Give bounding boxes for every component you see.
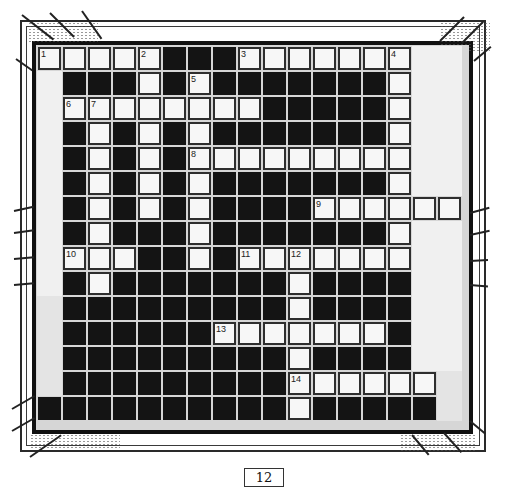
black-block <box>163 272 186 295</box>
black-block <box>138 322 161 345</box>
crossword-cell[interactable] <box>263 47 286 70</box>
black-block <box>113 297 136 320</box>
crossword-cell[interactable]: 1 <box>38 47 61 70</box>
black-block <box>63 72 86 95</box>
crossword-cell[interactable] <box>188 247 211 270</box>
black-block <box>238 397 261 420</box>
crossword-cell[interactable]: 6 <box>63 97 86 120</box>
crossword-cell[interactable] <box>88 197 111 220</box>
crossword-cell[interactable] <box>238 147 261 170</box>
grid-margin <box>37 346 62 371</box>
crossword-cell[interactable] <box>113 97 136 120</box>
crossword-cell[interactable]: 11 <box>238 247 261 270</box>
crossword-cell[interactable] <box>238 97 261 120</box>
crossword-cell[interactable] <box>288 47 311 70</box>
crossword-cell[interactable] <box>238 322 261 345</box>
crossword-cell[interactable] <box>363 147 386 170</box>
black-block <box>188 372 211 395</box>
crossword-cell[interactable] <box>338 372 361 395</box>
crossword-cell[interactable] <box>388 372 411 395</box>
black-block <box>113 347 136 370</box>
crossword-cell[interactable] <box>188 172 211 195</box>
crossword-cell[interactable] <box>413 372 436 395</box>
crossword-cell[interactable]: 3 <box>238 47 261 70</box>
crossword-cell[interactable] <box>88 247 111 270</box>
black-block <box>113 147 136 170</box>
crossword-cell[interactable] <box>188 197 211 220</box>
crossword-cell[interactable] <box>113 247 136 270</box>
crossword-cell[interactable] <box>363 197 386 220</box>
crossword-cell[interactable] <box>363 372 386 395</box>
crossword-cell[interactable] <box>163 97 186 120</box>
crossword-cell[interactable] <box>188 222 211 245</box>
crossword-cell[interactable] <box>363 247 386 270</box>
crossword-cell[interactable] <box>338 47 361 70</box>
crossword-cell[interactable]: 13 <box>213 322 236 345</box>
crossword-cell[interactable] <box>63 47 86 70</box>
grid-margin <box>37 96 62 121</box>
clue-number: 3 <box>241 49 246 59</box>
crossword-cell[interactable]: 5 <box>188 72 211 95</box>
crossword-cell[interactable] <box>313 322 336 345</box>
crossword-cell[interactable] <box>288 397 311 420</box>
crossword-cell[interactable] <box>138 72 161 95</box>
crossword-cell[interactable] <box>113 47 136 70</box>
crossword-cell[interactable] <box>363 47 386 70</box>
crossword-cell[interactable]: 2 <box>138 47 161 70</box>
crossword-cell[interactable] <box>138 97 161 120</box>
crossword-cell[interactable] <box>88 172 111 195</box>
crossword-cell[interactable] <box>288 272 311 295</box>
crossword-cell[interactable] <box>288 147 311 170</box>
crossword-cell[interactable] <box>288 322 311 345</box>
crossword-cell[interactable] <box>313 147 336 170</box>
crossword-cell[interactable] <box>313 247 336 270</box>
crossword-cell[interactable] <box>313 372 336 395</box>
crossword-cell[interactable] <box>388 122 411 145</box>
black-block <box>213 72 236 95</box>
crossword-cell[interactable] <box>138 122 161 145</box>
black-block <box>338 122 361 145</box>
crossword-cell[interactable] <box>438 197 461 220</box>
crossword-cell[interactable] <box>338 197 361 220</box>
black-block <box>163 372 186 395</box>
crossword-cell[interactable] <box>388 72 411 95</box>
crossword-cell[interactable] <box>213 97 236 120</box>
crossword-cell[interactable] <box>263 322 286 345</box>
crossword-cell[interactable] <box>88 47 111 70</box>
crossword-cell[interactable]: 8 <box>188 147 211 170</box>
crossword-cell[interactable] <box>138 197 161 220</box>
crossword-cell[interactable] <box>188 122 211 145</box>
crossword-cell[interactable] <box>313 47 336 70</box>
crossword-cell[interactable] <box>138 147 161 170</box>
crossword-cell[interactable] <box>388 222 411 245</box>
crossword-cell[interactable] <box>388 97 411 120</box>
crossword-cell[interactable]: 10 <box>63 247 86 270</box>
crossword-cell[interactable] <box>213 147 236 170</box>
crossword-cell[interactable]: 4 <box>388 47 411 70</box>
crossword-cell[interactable] <box>388 147 411 170</box>
crossword-cell[interactable] <box>363 322 386 345</box>
black-block <box>38 397 61 420</box>
crossword-cell[interactable] <box>388 247 411 270</box>
crossword-cell[interactable]: 12 <box>288 247 311 270</box>
crossword-cell[interactable] <box>338 322 361 345</box>
crossword-cell[interactable] <box>338 247 361 270</box>
crossword-cell[interactable] <box>263 247 286 270</box>
crossword-cell[interactable] <box>288 347 311 370</box>
crossword-cell[interactable] <box>413 197 436 220</box>
crossword-cell[interactable] <box>288 297 311 320</box>
crossword-cell[interactable] <box>388 197 411 220</box>
crossword-cell[interactable]: 14 <box>288 372 311 395</box>
crossword-cell[interactable] <box>138 172 161 195</box>
crossword-cell[interactable] <box>88 122 111 145</box>
crossword-cell[interactable] <box>263 147 286 170</box>
crossword-cell[interactable]: 7 <box>88 97 111 120</box>
crossword-cell[interactable] <box>188 97 211 120</box>
crossword-cell[interactable]: 9 <box>313 197 336 220</box>
black-block <box>338 297 361 320</box>
crossword-cell[interactable] <box>388 172 411 195</box>
crossword-cell[interactable] <box>338 147 361 170</box>
crossword-cell[interactable] <box>88 272 111 295</box>
crossword-cell[interactable] <box>88 222 111 245</box>
crossword-cell[interactable] <box>88 147 111 170</box>
